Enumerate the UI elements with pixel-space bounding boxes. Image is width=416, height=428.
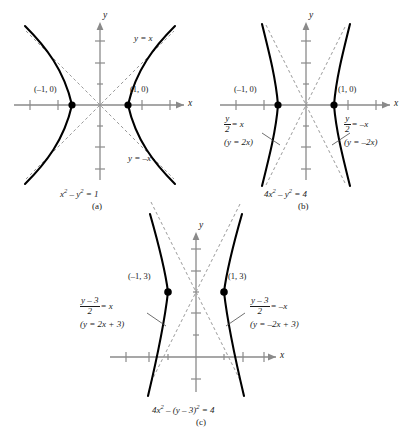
x-axis-label-c: x xyxy=(280,351,284,361)
panel-b-plot xyxy=(214,8,410,186)
y-axis-arrow-b xyxy=(303,22,310,30)
fraction-c-right: y – 3 2 = –x xyxy=(250,296,287,317)
asymptote-alt-b-right: (y = –2x) xyxy=(344,138,378,147)
vertex-label-a-left: (–1, 0) xyxy=(34,85,57,94)
equation-a-tail: = 1 xyxy=(84,189,99,199)
asymptote-label-a-neg: y = –x xyxy=(128,154,151,163)
asymptote-label-c-right: y – 3 2 = –x (y = –2x + 3) xyxy=(250,296,299,329)
fraction-c-right-rhs: = –x xyxy=(271,302,288,311)
fraction-b-right-stack: y 2 xyxy=(344,114,351,135)
fraction-c-left-rhs: = x xyxy=(101,302,113,311)
vertex-label-c-right: (1, 3) xyxy=(228,272,246,281)
vertex-label-b-right: (1, 0) xyxy=(338,85,356,94)
equation-b-mid: – y xyxy=(276,189,289,199)
y-axis-label-c: y xyxy=(199,221,203,231)
equation-b-tail: = 4 xyxy=(292,189,307,199)
leader-b-left xyxy=(262,133,280,145)
vertex-b-right xyxy=(330,101,337,108)
panel-a: x y (–1, 0) (1, 0) y = x y = –x x2 – y2 … xyxy=(8,8,204,208)
panel-a-plot xyxy=(8,8,204,186)
panel-b: x y (–1, 0) (1, 0) y 2 = x (y = 2x) y 2 … xyxy=(214,8,410,208)
asymptote-alt-b-left: (y = 2x) xyxy=(224,138,253,147)
y-axis-arrow-a xyxy=(97,22,104,30)
y-axis-label-a: y xyxy=(103,11,107,21)
fraction-c-right-denominator: 2 xyxy=(250,307,270,317)
equation-c-lead: 4x xyxy=(152,405,161,415)
fraction-c-right-stack: y – 3 2 xyxy=(250,296,270,317)
axes-a xyxy=(14,24,184,180)
vertex-b-left xyxy=(274,101,281,108)
fraction-b-right-denominator: 2 xyxy=(344,125,351,135)
equation-b-lead: 4x xyxy=(264,189,273,199)
x-axis-label-a: x xyxy=(188,99,192,109)
vertex-c-right xyxy=(220,288,228,296)
vertex-a-right xyxy=(124,101,131,108)
asymptote-label-b-left: y 2 = x (y = 2x) xyxy=(224,114,253,147)
fraction-b-right: y 2 = –x xyxy=(344,114,368,135)
vertex-label-b-left: (–1, 0) xyxy=(234,85,257,94)
equation-c-mid: – (y – 3) xyxy=(164,405,197,415)
equation-a-mid: – y xyxy=(67,189,80,199)
asymptote-label-a-pos: y = x xyxy=(134,34,153,43)
equation-b: 4x2 – y2 = 4 xyxy=(264,190,307,199)
fraction-b-right-rhs: = –x xyxy=(352,120,369,129)
x-axis-arrow-a xyxy=(176,102,184,109)
fraction-c-left: y – 3 2 = x xyxy=(80,296,113,317)
caption-c: (c) xyxy=(196,418,206,427)
curve-c-left xyxy=(148,214,168,396)
panel-c: x y (–1, 3) (1, 3) y – 3 2 = x (y = 2x +… xyxy=(104,216,354,426)
asymptote-alt-c-right: (y = –2x + 3) xyxy=(250,320,299,329)
vertex-label-a-right: (1, 0) xyxy=(130,85,148,94)
equation-c-tail: = 4 xyxy=(200,405,215,415)
fraction-b-left: y 2 = x xyxy=(224,114,244,135)
hyperbola-figure: x y (–1, 0) (1, 0) y = x y = –x x2 – y2 … xyxy=(0,0,416,428)
y-axis-label-b: y xyxy=(309,11,313,21)
x-axis-arrow-b xyxy=(382,102,390,109)
x-axis-arrow-c xyxy=(268,354,276,361)
vertex-a-left xyxy=(68,101,75,108)
caption-a: (a) xyxy=(92,202,102,211)
equation-c: 4x2 – (y – 3)2 = 4 xyxy=(152,406,215,415)
fraction-c-left-stack: y – 3 2 xyxy=(80,296,100,317)
fraction-b-left-stack: y 2 xyxy=(224,114,231,135)
vertex-c-left xyxy=(164,288,172,296)
panel-c-plot xyxy=(104,216,354,406)
y-axis-arrow-c xyxy=(193,232,200,240)
asymptote-alt-c-left: (y = 2x + 3) xyxy=(80,320,124,329)
asymptote-label-c-left: y – 3 2 = x (y = 2x + 3) xyxy=(80,296,124,329)
x-axis-label-b: x xyxy=(394,99,398,109)
asymptote-label-b-right: y 2 = –x (y = –2x) xyxy=(344,114,378,147)
fraction-b-left-denominator: 2 xyxy=(224,125,231,135)
fraction-c-left-denominator: 2 xyxy=(80,307,100,317)
vertex-label-c-left: (–1, 3) xyxy=(128,272,151,281)
equation-a: x2 – y2 = 1 xyxy=(60,190,99,199)
caption-b: (b) xyxy=(298,202,309,211)
fraction-b-left-rhs: = x xyxy=(232,120,244,129)
